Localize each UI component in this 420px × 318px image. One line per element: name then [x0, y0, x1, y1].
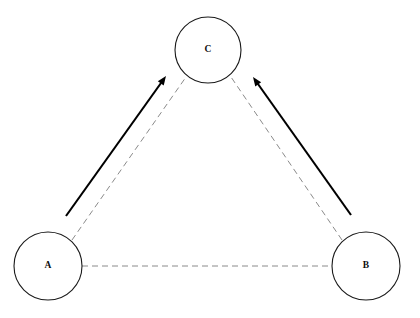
dashed-edge-a-c [72, 77, 186, 240]
node-a[interactable]: A [14, 232, 82, 300]
node-a-label: A [44, 260, 51, 270]
diagram-canvas: A B C [0, 0, 420, 318]
node-b-label: B [363, 260, 370, 270]
diagram-svg: A B C [0, 0, 420, 318]
dashed-edge-b-c [231, 77, 342, 240]
dashed-edge-group [72, 77, 342, 266]
arrow-b-to-c [253, 77, 351, 215]
arrow-b-to-c-shaft [257, 83, 351, 215]
node-c-label: C [204, 44, 211, 54]
node-c[interactable]: C [175, 17, 241, 83]
arrow-group [66, 76, 351, 216]
arrow-a-to-c [66, 76, 166, 216]
arrow-a-to-c-shaft [66, 81, 162, 216]
node-b[interactable]: B [332, 232, 400, 300]
